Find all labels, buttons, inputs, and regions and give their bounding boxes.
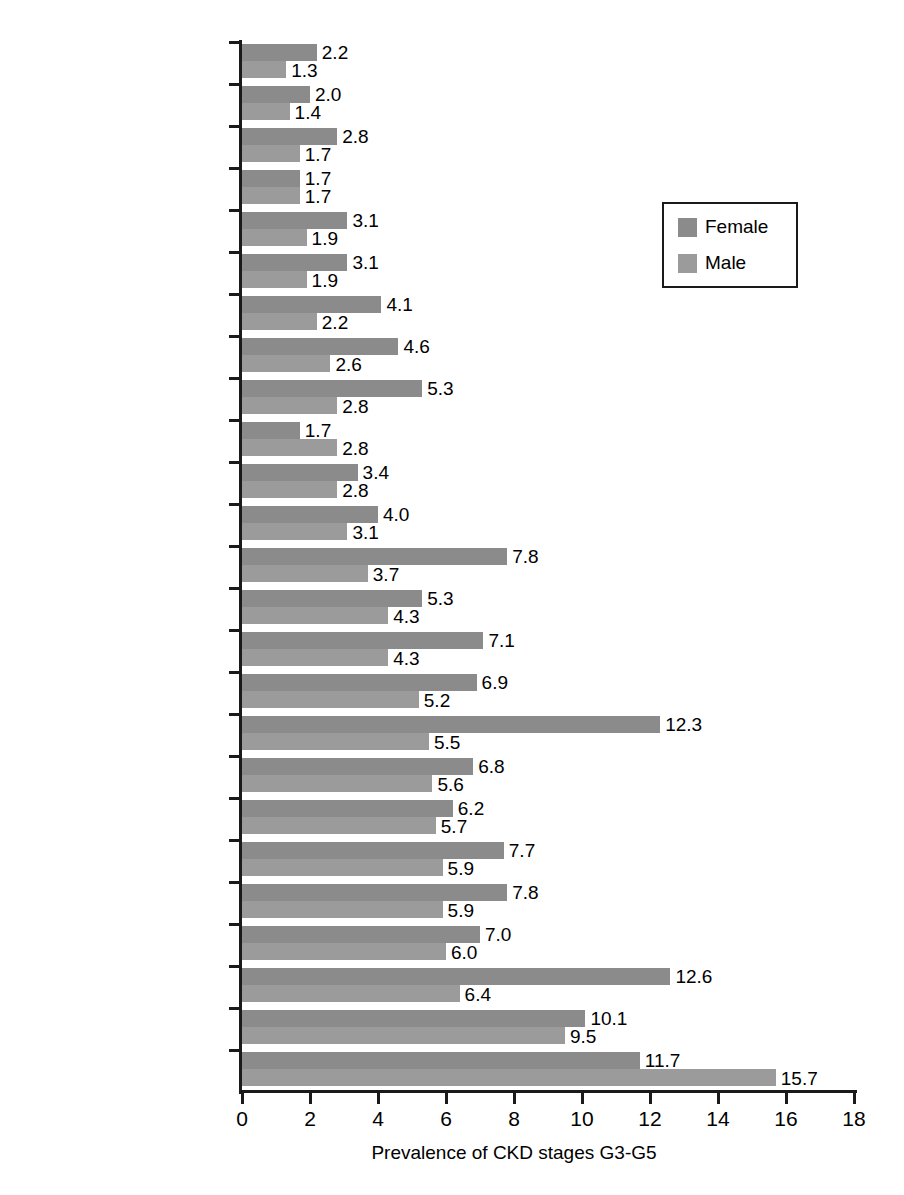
chart-row: France12.66.4: [242, 966, 854, 1008]
bar-value-label-male: 2.8: [342, 439, 368, 458]
bar-male: [242, 481, 337, 498]
bar-value-label-female: 3.1: [352, 253, 378, 272]
y-axis-tick: [229, 209, 240, 212]
bar-male: [242, 61, 286, 78]
bar-female: [242, 1010, 585, 1027]
chart-row: Germany2.81.7: [242, 126, 854, 168]
y-axis-tick: [229, 419, 240, 422]
bar-female: [242, 380, 422, 397]
chart-row: Poland6.85.6: [242, 756, 854, 798]
bar-value-label-male: 5.6: [437, 775, 463, 794]
bar-value-label-female: 5.3: [427, 589, 453, 608]
bar-value-label-male: 1.7: [305, 145, 331, 164]
y-axis-tick: [229, 545, 240, 548]
bar-value-label-female: 7.8: [512, 547, 538, 566]
x-axis-tick: [581, 1092, 584, 1104]
x-axis-tick-label: 18: [824, 1108, 884, 1129]
bar-value-label-female: 11.7: [645, 1051, 681, 1070]
y-axis-tick: [229, 881, 240, 884]
y-axis-tick: [229, 797, 240, 800]
x-axis-tick: [309, 1092, 312, 1104]
bar-male: [242, 355, 330, 372]
chart-row: Thailand12.35.5: [242, 714, 854, 756]
x-axis-tick: [649, 1092, 652, 1104]
bar-male: [242, 145, 300, 162]
bar-value-label-male: 4.3: [393, 607, 419, 626]
bar-value-label-female: 7.8: [512, 883, 538, 902]
bar-value-label-male: 6.4: [465, 985, 491, 1004]
bar-male: [242, 229, 307, 246]
y-axis-tick: [229, 293, 240, 296]
chart-row: Urumqi. China10.19.5: [242, 1008, 854, 1050]
x-axis-tick: [513, 1092, 516, 1104]
bar-female: [242, 422, 300, 439]
x-axis-tick: [853, 1092, 856, 1104]
x-axis-title-text: Prevalence of CKD stages G3-G5: [371, 1142, 656, 1163]
x-axis-tick-label: 6: [416, 1108, 476, 1129]
bar-male: [242, 943, 446, 960]
chart-row: Korea4.62.6: [242, 336, 854, 378]
bar-male: [242, 859, 443, 876]
bar-value-label-male: 4.3: [393, 649, 419, 668]
bar-value-label-male: 9.5: [570, 1027, 596, 1046]
bar-female: [242, 968, 670, 985]
bar-male: [242, 775, 432, 792]
y-axis-tick: [229, 1049, 240, 1052]
chart-row: UK7.06.0: [242, 924, 854, 966]
x-axis-tick-label: 4: [348, 1108, 408, 1129]
bar-male: [242, 565, 368, 582]
legend: Female Male: [662, 202, 798, 288]
bar-value-label-male: 3.7: [373, 565, 399, 584]
chart-row: Canada3.42.8: [242, 462, 854, 504]
chart-row: Singapore1.72.8: [242, 420, 854, 462]
bar-female: [242, 716, 660, 733]
bar-value-label-male: 15.7: [781, 1069, 818, 1088]
bar-male: [242, 523, 347, 540]
y-axis-tick: [229, 923, 240, 926]
bar-value-label-female: 7.0: [485, 925, 511, 944]
chart-row: Portugal7.83.7: [242, 546, 854, 588]
plot-area: China2.21.3Beijing. China2.01.4Germany2.…: [242, 42, 854, 1092]
bar-value-label-male: 1.3: [291, 61, 317, 80]
y-axis-tick: [229, 83, 240, 86]
bar-male: [242, 1027, 565, 1044]
bar-value-label-male: 5.5: [434, 733, 460, 752]
x-axis-tick: [241, 1092, 244, 1104]
bar-value-label-male: 2.6: [335, 355, 361, 374]
bar-male: [242, 187, 300, 204]
bar-value-label-male: 2.8: [342, 397, 368, 416]
bar-male: [242, 733, 429, 750]
x-axis-tick-label: 0: [212, 1108, 272, 1129]
y-axis-tick: [229, 965, 240, 968]
bar-female: [242, 758, 473, 775]
bar-male: [242, 649, 388, 666]
legend-swatch-female-icon: [678, 218, 697, 237]
bar-male: [242, 397, 337, 414]
bar-female: [242, 464, 358, 481]
x-axis-tick-label: 10: [552, 1108, 612, 1129]
chart-row: Australia5.34.3: [242, 588, 854, 630]
bar-female: [242, 800, 453, 817]
bar-value-label-female: 2.8: [342, 127, 368, 146]
chart-row: Gubbio. central Italy6.25.7: [242, 798, 854, 840]
bar-male: [242, 271, 307, 288]
bar-value-label-female: 12.6: [675, 967, 712, 986]
bar-female: [242, 1052, 640, 1069]
bar-value-label-female: 4.1: [386, 295, 412, 314]
x-axis-title: Prevalence of CKD stages G3-G5: [0, 1143, 904, 1162]
bar-female: [242, 842, 504, 859]
bar-value-label-male: 5.9: [448, 901, 474, 920]
y-axis-tick: [229, 167, 240, 170]
y-axis-tick: [229, 587, 240, 590]
bar-male: [242, 607, 388, 624]
chart-row: Turkey5.32.8: [242, 378, 854, 420]
bar-value-label-female: 12.3: [665, 715, 702, 734]
x-axis-tick: [785, 1092, 788, 1104]
bar-value-label-female: 4.0: [383, 505, 409, 524]
bar-male: [242, 901, 443, 918]
y-axis-tick: [229, 125, 240, 128]
legend-label-female: Female: [705, 217, 768, 236]
bar-male: [242, 313, 317, 330]
bar-female: [242, 674, 477, 691]
chart-row: Delhi. India4.03.1: [242, 504, 854, 546]
